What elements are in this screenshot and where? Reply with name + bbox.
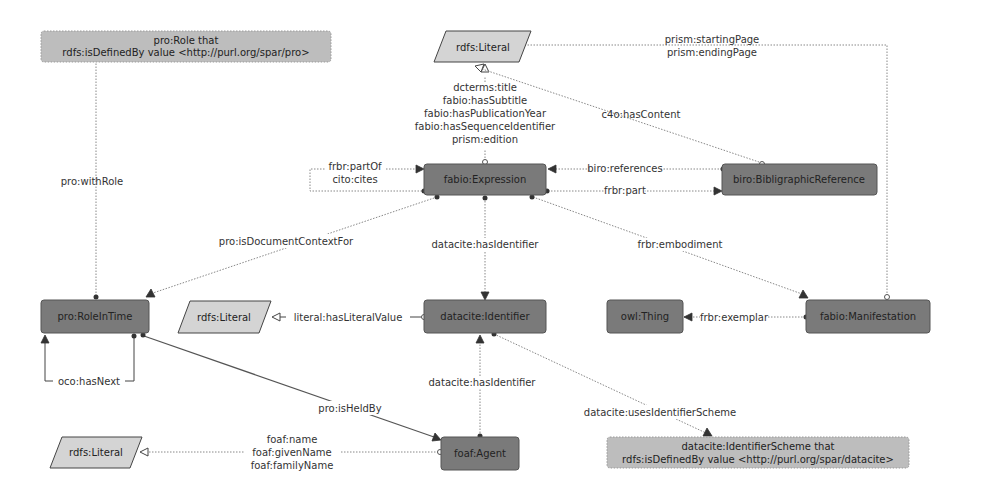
edge-label-fabio-hassequenceidentifier: fabio:hasSequenceIdentifier (415, 121, 556, 132)
edge-label-prism-startingpage: prism:startingPage (665, 34, 760, 45)
node-label-datacite-scheme-line1: datacite:IdentifierScheme that (681, 441, 834, 452)
node-label-rdfs-literal-mid: rdfs:Literal (197, 312, 251, 323)
edge-label-foaf-givenname: foaf:givenName (252, 447, 331, 458)
edge-partof-cites-loop: frbr:partOf cito:cites (310, 160, 427, 194)
edge-label-frbr-exemplar: frbr:exemplar (700, 312, 769, 323)
edge-label-frbr-partof: frbr:partOf (328, 161, 382, 172)
node-label-pro-roleintime: pro:RoleInTime (57, 311, 132, 322)
node-datacite-identifier[interactable]: datacite:Identifier (424, 300, 546, 333)
edge-frbr-embodiment: frbr:embodiment (530, 195, 809, 299)
node-pro-role-restriction[interactable]: pro:Role that rdfs:isDefinedBy value <ht… (41, 31, 331, 62)
edge-label-biro-references: biro:references (587, 163, 662, 174)
edge-expression-literal-properties: dcterms:title fabio:hasSubtitle fabio:ha… (415, 64, 556, 165)
edge-biro-references: biro:references (548, 161, 726, 174)
edge-pro-isheldby: pro:isHeldBy (141, 333, 442, 442)
node-label-pro-role-line1: pro:Role that (154, 35, 219, 46)
node-rdfs-literal-bottom[interactable]: rdfs:Literal (50, 437, 142, 468)
edge-pro-withrole: pro:withRole (61, 33, 124, 300)
node-owl-thing[interactable]: owl:Thing (607, 300, 683, 333)
edge-literal-hasliteralvalue: literal:hasLiteralValue (272, 310, 427, 324)
edge-oco-hasnext-loop: oco:hasNext (41, 334, 137, 389)
edge-label-foaf-name: foaf:name (267, 434, 318, 445)
ontology-diagram: pro:withRole prism:startingPage prism:en… (0, 0, 983, 499)
edge-frbr-part: frbr:part (545, 184, 723, 197)
node-fabio-manifestation[interactable]: fabio:Manifestation (806, 300, 930, 333)
node-pro-roleintime[interactable]: pro:RoleInTime (41, 300, 149, 333)
edge-datacite-hasidentifier-expression: datacite:hasIdentifier (424, 196, 546, 301)
edge-label-dcterms-title: dcterms:title (453, 82, 517, 93)
node-label-rdfs-literal-top: rdfs:Literal (456, 42, 510, 53)
node-datacite-identifierscheme-restriction[interactable]: datacite:IdentifierScheme that rdfs:isDe… (607, 437, 909, 468)
node-label-foaf-agent: foaf:Agent (454, 448, 506, 459)
edge-label-foaf-familyname: foaf:familyName (251, 460, 334, 471)
node-rdfs-literal-mid[interactable]: rdfs:Literal (178, 301, 271, 333)
edge-pro-isdocumentcontextfor: pro:isDocumentContextFor (146, 195, 440, 298)
node-label-fabio-manifestation: fabio:Manifestation (820, 311, 916, 322)
edge-label-c4o-hascontent: c4o:hasContent (602, 109, 681, 120)
edge-label-pro-withrole: pro:withRole (61, 176, 124, 187)
edge-label-cito-cites: cito:cites (332, 174, 377, 185)
edge-label-frbr-part: frbr:part (604, 185, 646, 196)
edge-label-fabio-hassubtitle: fabio:hasSubtitle (443, 95, 528, 106)
node-biro-bibliographic-reference[interactable]: biro:BibligraphicReference (722, 164, 877, 195)
node-label-rdfs-literal-bottom: rdfs:Literal (69, 447, 123, 458)
node-label-owl-thing: owl:Thing (621, 311, 669, 322)
edge-label-literal-hasliteralvalue: literal:hasLiteralValue (294, 312, 403, 323)
node-label-fabio-expression: fabio:Expression (444, 174, 527, 185)
edge-label-pro-isheldby: pro:isHeldBy (318, 403, 381, 414)
edge-label-datacite-hasidentifier-1: datacite:hasIdentifier (432, 239, 540, 250)
node-foaf-agent[interactable]: foaf:Agent (441, 437, 519, 470)
edge-label-pro-isdocumentcontextfor: pro:isDocumentContextFor (219, 236, 354, 247)
node-label-datacite-identifier: datacite:Identifier (440, 311, 530, 322)
edge-frbr-exemplar: frbr:exemplar (684, 310, 809, 324)
node-label-datacite-scheme-line2: rdfs:isDefinedBy value <http://purl.org/… (622, 454, 894, 465)
edge-label-fabio-haspublicationyear: fabio:hasPublicationYear (424, 108, 547, 119)
edge-label-oco-hasnext: oco:hasNext (58, 376, 120, 387)
edge-datacite-hasidentifier-agent: datacite:hasIdentifier (421, 335, 543, 439)
node-fabio-expression[interactable]: fabio:Expression (424, 164, 546, 195)
node-rdfs-literal-top[interactable]: rdfs:Literal (434, 31, 531, 62)
edge-label-datacite-usesidentifierscheme: datacite:usesIdentifierScheme (584, 407, 736, 418)
edge-foaf-names: foaf:name foaf:givenName foaf:familyName (140, 432, 443, 474)
node-label-pro-role-line2: rdfs:isDefinedBy value <http://purl.org/… (62, 47, 309, 58)
edge-label-prism-endingpage: prism:endingPage (667, 47, 757, 58)
edge-label-prism-edition-visible: prism:edition (452, 134, 518, 145)
edge-label-datacite-hasidentifier-2: datacite:hasIdentifier (429, 377, 537, 388)
node-label-biro-bibref: biro:BibligraphicReference (733, 174, 865, 185)
edge-label-frbr-embodiment: frbr:embodiment (638, 239, 723, 250)
